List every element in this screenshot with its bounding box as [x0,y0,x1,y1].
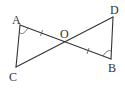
segment-bd [111,17,113,59]
angle-mark-b [103,51,112,56]
angle-mark-a [19,28,28,34]
point-label-d: D [110,3,119,17]
point-label-c: C [9,70,17,84]
segment-cd [16,17,113,67]
point-label-b: B [108,61,116,75]
point-label-o: O [60,27,69,41]
segment-ac [16,25,20,67]
geometry-diagram: A O D B C [0,0,125,111]
point-label-a: A [12,13,21,27]
